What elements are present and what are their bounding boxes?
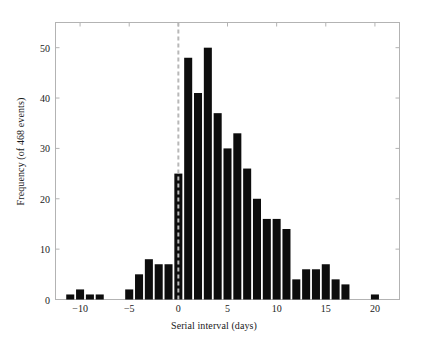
histogram-bar (322, 264, 330, 299)
x-axis-label: Serial interval (days) (0, 320, 428, 331)
histogram-bar (165, 264, 173, 299)
x-tick-label: 10 (272, 303, 282, 314)
y-tick-label: 50 (26, 42, 50, 53)
histogram-bar (233, 133, 241, 299)
bar-series (66, 48, 379, 300)
x-tick-label: 5 (225, 303, 230, 314)
histogram-figure: Serial interval (days) Frequency (of 468… (0, 0, 428, 350)
x-tick-label: 15 (321, 303, 331, 314)
histogram-bar (145, 259, 153, 299)
histogram-bar (243, 169, 251, 300)
histogram-bar (282, 229, 290, 300)
histogram-bar (125, 289, 133, 299)
histogram-bar (86, 294, 94, 299)
histogram-bar (66, 294, 74, 299)
histogram-bar (184, 58, 192, 300)
y-tick-label: 20 (26, 193, 50, 204)
histogram-bar (273, 219, 281, 300)
histogram-bar (341, 284, 349, 299)
y-tick-label: 40 (26, 93, 50, 104)
histogram-bar (302, 269, 310, 299)
x-tick-label: 20 (370, 303, 380, 314)
histogram-bar (214, 113, 222, 299)
plot-area (0, 0, 428, 350)
histogram-bar (263, 219, 271, 300)
histogram-bar (96, 294, 104, 299)
y-axis-label: Frequency (of 468 events) (15, 62, 26, 242)
y-tick-label: 30 (26, 143, 50, 154)
histogram-bar (332, 279, 340, 299)
x-tick-label: −5 (124, 303, 135, 314)
histogram-bar (312, 269, 320, 299)
histogram-bar (223, 148, 231, 299)
histogram-bar (155, 264, 163, 299)
histogram-bar (204, 48, 212, 300)
histogram-bar (292, 279, 300, 299)
histogram-bar (371, 294, 379, 299)
y-tick-label: 0 (26, 294, 50, 305)
histogram-bar (135, 274, 143, 299)
histogram-bar (76, 289, 84, 299)
x-tick-label: −10 (72, 303, 88, 314)
x-tick-label: 0 (176, 303, 181, 314)
y-tick-label: 10 (26, 244, 50, 255)
histogram-bar (194, 93, 202, 299)
histogram-bar (253, 199, 261, 300)
